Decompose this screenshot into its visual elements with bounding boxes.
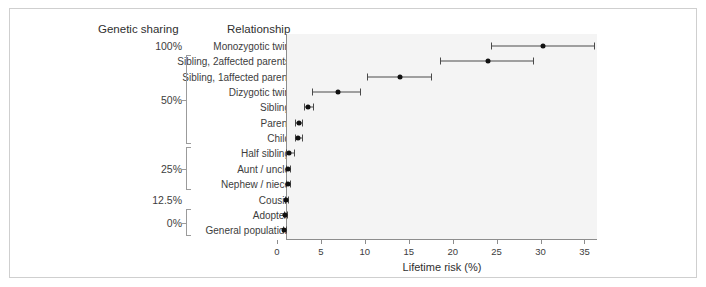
confidence-interval-cap [302,135,303,142]
confidence-interval-cap [491,43,492,50]
relationship-label: Aunt / uncle [237,163,290,174]
confidence-interval-cap [290,165,291,172]
x-tick-label: 25 [491,246,502,257]
x-tick [497,240,498,244]
genetic-sharing-bracket-tick [181,223,186,224]
plot-area [287,34,597,239]
data-point [335,90,340,95]
x-tick [584,240,585,244]
relationship-label: Dizygotic twin [229,87,290,98]
genetic-sharing-bracket-tick [181,169,186,170]
relationship-label: Monozygotic twin [213,41,290,52]
confidence-interval-cap [294,150,295,157]
x-tick-label: 10 [360,246,371,257]
data-point [282,212,287,217]
x-tick [365,240,366,244]
x-tick-label: 30 [535,246,546,257]
x-axis-line [286,239,597,240]
x-axis-title: Lifetime risk (%) [287,261,597,273]
data-point [541,44,546,49]
x-tick [321,240,322,244]
x-tick-label: 0 [274,246,279,257]
data-point [397,74,402,79]
confidence-interval-cap [290,181,291,188]
genetic-sharing-label: 50% [161,94,182,106]
genetic-sharing-bracket [186,147,191,190]
x-tick [453,240,454,244]
figure-frame: Genetic sharing Relationship 100%50%25%1… [9,8,697,278]
genetic-sharing-bracket [186,55,191,144]
x-tick-label: 20 [447,246,458,257]
relationship-label: Half sibling [241,148,290,159]
genetic-sharing-label: 0% [167,217,182,229]
confidence-interval-cap [313,104,314,111]
confidence-interval-cap [360,89,361,96]
genetic-sharing-label: 100% [155,40,182,52]
relationship-column: Monozygotic twinSibling, 2affected paren… [190,9,290,277]
confidence-interval-cap [431,73,432,80]
data-point [296,136,301,141]
data-point [285,166,290,171]
relationship-label: General population [205,225,290,236]
genetic-sharing-bracket-tick [181,100,186,101]
x-tick [409,240,410,244]
confidence-interval-cap [594,43,595,50]
genetic-sharing-bracket [186,209,191,236]
confidence-interval-cap [302,119,303,126]
data-point [485,59,490,64]
genetic-sharing-label: 12.5% [152,194,182,206]
x-tick-label: 35 [579,246,590,257]
confidence-interval-cap [312,89,313,96]
data-point [282,228,287,233]
x-tick [541,240,542,244]
x-tick-label: 15 [403,246,414,257]
data-point [287,151,292,156]
genetic-sharing-column: 100%50%25%12.5%0% [50,9,182,277]
x-tick-label: 5 [318,246,323,257]
x-tick [277,240,278,244]
data-point [285,182,290,187]
confidence-interval-cap [440,58,441,65]
confidence-interval-cap [533,58,534,65]
relationship-label: Sibling, 1affected parent [182,71,290,82]
relationship-label: Sibling, 2affected parents [177,56,290,67]
data-point [283,197,288,202]
relationship-label: Nephew / niece [221,179,290,190]
data-point [305,105,310,110]
data-point [296,120,301,125]
genetic-sharing-label: 25% [161,163,182,175]
confidence-interval-cap [367,73,368,80]
